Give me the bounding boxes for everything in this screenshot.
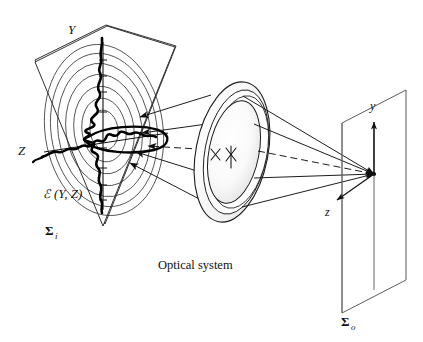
axis-Z-label: Z [18, 143, 26, 158]
ray-object-4 [254, 174, 374, 178]
axis-y-label: y [369, 99, 376, 113]
field-function-label-group: ℰ (Y, Z) [43, 186, 82, 201]
image-plane-label-group: Σ i [45, 223, 58, 241]
axis-z-group: z [324, 174, 374, 219]
object-plane-label: Σ [341, 314, 350, 329]
ray-object-2 [254, 124, 374, 174]
axis-Y-label: Y [68, 22, 77, 37]
optical-system-group [183, 75, 281, 228]
ray-object-3-dashed [258, 151, 374, 174]
object-point [372, 172, 376, 176]
axis-y-group: y [369, 99, 376, 290]
field-function-symbol: ℰ [43, 187, 52, 201]
axis-z-label: z [324, 205, 330, 219]
object-plane-label-sub: o [351, 322, 356, 332]
image-plane-label: Σ [45, 223, 54, 238]
figure-canvas: Y Z ℰ (Y, Z) Σ i [0, 0, 423, 342]
field-function-args: (Y, Z) [54, 186, 82, 201]
image-plane-label-sub: i [55, 231, 58, 241]
optics-figure: Y Z ℰ (Y, Z) Σ i [0, 0, 423, 342]
axis-z-line [337, 174, 374, 200]
field-waveform-tail [33, 156, 44, 162]
optical-system-caption: Optical system [158, 258, 233, 272]
object-plane-label-group: Σ o [341, 314, 356, 332]
